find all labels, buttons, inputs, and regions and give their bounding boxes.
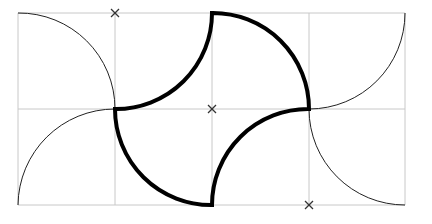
thin-arc [309,109,405,205]
diagram-canvas [0,0,432,224]
thin-arc [309,13,405,109]
thin-arc [18,109,115,205]
thin-arc [18,13,115,109]
